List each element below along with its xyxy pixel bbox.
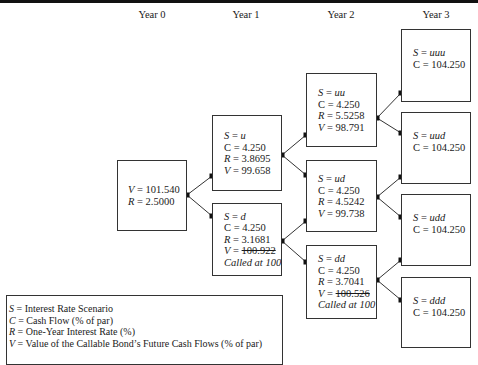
node-text-fragment: = Value of the Callable Bond’s Future Ca… (15, 338, 262, 349)
node-text-fragment: 4.250 (336, 265, 360, 276)
node-uuu-scenario: S = uuu (413, 47, 470, 59)
node-text-fragment: 4.250 (336, 99, 360, 110)
node-root: V = 101.540 R = 2.5000 (117, 160, 187, 231)
node-text-fragment: 99.738 (336, 208, 365, 219)
node-root-rate: R = 2.5000 (128, 196, 186, 208)
node-text-fragment: = (325, 265, 336, 276)
node-uuu-cashflow: C = 104.250 (413, 59, 470, 71)
node-uu-rate: R = 5.5258 (318, 110, 376, 122)
node-text-fragment: = (324, 276, 335, 287)
node-d-cashflow: C = 4.250 (224, 222, 281, 234)
node-u-cashflow: C = 4.250 (224, 142, 281, 154)
legend-row-scenario: S = Interest Rate Scenario (9, 303, 282, 315)
legend-row-value: V = Value of the Callable Bond’s Future … (9, 338, 282, 350)
node-text-fragment: C (224, 222, 231, 233)
node-text-fragment: = (418, 47, 429, 58)
node-u-scenario: S = u (224, 130, 281, 142)
node-text-fragment: 3.7041 (336, 276, 365, 287)
node-text-fragment: uu (334, 87, 345, 98)
node-d-value: V = 100.922 (224, 245, 281, 257)
node-text-fragment: = (230, 165, 241, 176)
node-text-fragment: = (230, 234, 241, 245)
node-dd-rate: R = 3.7041 (318, 276, 376, 288)
node-text-fragment: dd (334, 253, 345, 264)
node-ud-cashflow: C = 4.250 (318, 185, 376, 197)
node-root-value: V = 101.540 (128, 184, 186, 196)
node-text-fragment: = (325, 99, 336, 110)
node-text-fragment: = (325, 185, 336, 196)
node-text-fragment: = (231, 222, 242, 233)
node-text-fragment: C (9, 315, 16, 326)
node-text-fragment: ud (334, 173, 345, 184)
node-ddd-cashflow: C = 104.250 (413, 307, 470, 319)
node-d: S = d C = 4.250 R = 3.1681 V = 100.922 C… (212, 203, 282, 276)
node-uu-scenario: S = uu (318, 87, 376, 99)
node-ud: S = ud C = 4.250 R = 4.5242 V = 99.738 (306, 160, 377, 232)
node-text-fragment: = (323, 173, 334, 184)
node-text-fragment: udd (429, 212, 445, 223)
node-text-fragment: C (224, 142, 231, 153)
node-dd-scenario: S = dd (318, 253, 376, 265)
node-text-fragment: = (324, 122, 335, 133)
node-text-fragment: = (229, 130, 240, 141)
node-text-fragment: = (420, 59, 431, 70)
node-text-fragment: 4.250 (242, 142, 266, 153)
node-text-fragment: 99.658 (242, 165, 271, 176)
node-uu-cashflow: C = 4.250 (318, 99, 376, 111)
node-text-fragment: 104.250 (431, 59, 465, 70)
node-text-fragment: = (418, 295, 429, 306)
node-uud-cashflow: C = 104.250 (413, 142, 470, 154)
node-uud-scenario: S = uud (413, 130, 470, 142)
node-uu-value: V = 98.791 (318, 122, 376, 134)
node-text-fragment: = (418, 130, 429, 141)
node-text-fragment: 3.1681 (242, 234, 271, 245)
node-text-fragment: = (420, 142, 431, 153)
node-dd-cashflow: C = 4.250 (318, 265, 376, 277)
node-text-fragment: = (230, 153, 241, 164)
year-0-header: Year 0 (122, 9, 182, 20)
legend: S = Interest Rate Scenario C = Cash Flow… (6, 295, 283, 365)
node-dd-value: V = 100.526 (318, 288, 376, 300)
node-text-fragment: C (413, 142, 420, 153)
node-text-fragment: C (318, 265, 325, 276)
node-text-fragment: = (418, 212, 429, 223)
node-uu: S = uu C = 4.250 R = 5.5258 V = 98.791 (306, 73, 377, 147)
node-u-rate: R = 3.8695 (224, 153, 281, 165)
node-text-fragment: 100.922 (242, 245, 276, 256)
node-text-fragment: = (323, 253, 334, 264)
node-text-fragment: 104.250 (431, 224, 465, 235)
top-border-bar (0, 0, 478, 3)
node-text-fragment: 3.8695 (242, 153, 271, 164)
node-text-fragment: 4.250 (242, 222, 266, 233)
year-1-header: Year 1 (216, 9, 276, 20)
node-u-value: V = 99.658 (224, 165, 281, 177)
node-ud-value: V = 99.738 (318, 208, 376, 220)
node-d-rate: R = 3.1681 (224, 234, 281, 246)
node-ud-rate: R = 4.5242 (318, 196, 376, 208)
node-text-fragment: = (420, 307, 431, 318)
year-2-header: Year 2 (311, 9, 371, 20)
node-text-fragment: = One-Year Interest Rate (%) (15, 326, 135, 337)
node-text-fragment: C (413, 59, 420, 70)
node-ud-scenario: S = ud (318, 173, 376, 185)
node-text-fragment: d (240, 211, 245, 222)
node-text-fragment: = (324, 208, 335, 219)
node-text-fragment: = Cash Flow (% of par) (16, 315, 113, 326)
node-text-fragment: C (318, 99, 325, 110)
node-text-fragment: = (324, 288, 335, 299)
node-text-fragment: = Interest Rate Scenario (14, 303, 113, 314)
node-dd: S = dd C = 4.250 R = 3.7041 V = 100.526 … (306, 245, 377, 319)
node-text-fragment: = (231, 142, 242, 153)
node-text-fragment: 100.526 (336, 288, 370, 299)
node-text-fragment: 5.5258 (336, 110, 365, 121)
node-text-fragment: C (318, 185, 325, 196)
year-3-header: Year 3 (406, 9, 466, 20)
node-udd-cashflow: C = 104.250 (413, 224, 470, 236)
node-text-fragment: u (240, 130, 245, 141)
node-text-fragment: 98.791 (336, 122, 365, 133)
node-d-called-note: Called at 100 (224, 257, 281, 269)
node-text-fragment: 104.250 (431, 142, 465, 153)
node-udd: S = udd C = 104.250 (401, 194, 471, 266)
legend-row-rate: R = One-Year Interest Rate (%) (9, 326, 282, 338)
node-text-fragment: = (230, 245, 241, 256)
